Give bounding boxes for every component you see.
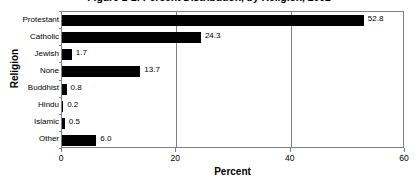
x-tick-label: 20 (171, 153, 180, 163)
bar[interactable] (62, 118, 65, 129)
bar-row: 13.7 (62, 63, 403, 80)
bar-value-label: 52.8 (368, 14, 384, 23)
bar-value-label: 1.7 (76, 48, 87, 57)
bar-row: 24.3 (62, 29, 403, 46)
bar[interactable] (62, 15, 364, 26)
x-tick-label: 0 (59, 153, 64, 163)
bar-row: 52.8 (62, 12, 403, 29)
bar-row: 0.8 (62, 81, 403, 98)
bar[interactable] (62, 32, 201, 43)
bar-row: 0.2 (62, 98, 403, 115)
x-axis-ticks: 0204060 (61, 148, 404, 164)
bar[interactable] (62, 84, 67, 95)
x-axis-title: Percent (61, 166, 404, 177)
x-tick-mark (290, 148, 291, 152)
bar[interactable] (62, 49, 72, 60)
category-label-hindu: Hindu (3, 100, 59, 109)
x-tick-mark (175, 148, 176, 152)
plot-area: 52.824.31.713.70.80.20.56.0 (61, 11, 404, 148)
x-tick-mark (61, 148, 62, 152)
x-tick-mark (404, 148, 405, 152)
bar[interactable] (62, 135, 96, 146)
bar-row: 1.7 (62, 46, 403, 63)
bar-chart-figure: Figure 1-1: Percent Distribution, by Rel… (0, 0, 418, 183)
x-tick-label: 40 (285, 153, 294, 163)
y-axis-tick-labels: ProtestantCatholicJewishNoneBuddhistHind… (0, 11, 59, 148)
category-label-protestant: Protestant (3, 15, 59, 24)
bar-value-label: 6.0 (100, 134, 111, 143)
chart-title: Figure 1-1: Percent Distribution, by Rel… (0, 0, 418, 3)
category-label-none: None (3, 66, 59, 75)
bar-value-label: 0.2 (67, 100, 78, 109)
category-label-jewish: Jewish (3, 49, 59, 58)
bar-value-label: 0.5 (69, 117, 80, 126)
category-label-catholic: Catholic (3, 32, 59, 41)
x-tick-label: 60 (399, 153, 408, 163)
bar[interactable] (62, 101, 63, 112)
category-label-buddhist: Buddhist (3, 83, 59, 92)
category-label-islamic: Islamic (3, 117, 59, 126)
bar-value-label: 0.8 (71, 83, 82, 92)
bar[interactable] (62, 66, 140, 77)
bar-value-label: 13.7 (144, 65, 160, 74)
bar-value-label: 24.3 (205, 31, 221, 40)
bar-row: 6.0 (62, 132, 403, 149)
bar-row: 0.5 (62, 115, 403, 132)
category-label-other: Other (3, 134, 59, 143)
